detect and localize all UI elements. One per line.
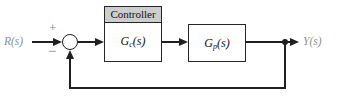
feedback-right-vertical-line: [284, 42, 286, 89]
feedback-left-vertical-line: [69, 57, 71, 87]
plant-tf-args: (s): [217, 36, 230, 50]
output-signal-label: Y(s): [303, 35, 322, 47]
controller-to-plant-arrowhead-icon: [179, 38, 188, 46]
sum-to-controller-arrowhead-icon: [95, 38, 104, 46]
controller-block-body: Gc(s): [105, 23, 161, 60]
plant-block: Gp(s): [188, 24, 246, 62]
output-arrowhead-icon: [290, 38, 299, 46]
summing-junction: [62, 34, 78, 50]
controller-block-header: Controller: [105, 7, 161, 23]
minus-sign: −: [48, 44, 56, 59]
feedback-arrowhead-icon: [66, 50, 74, 59]
controller-to-plant-line: [162, 41, 179, 43]
plant-transfer-function-label: Gp(s): [204, 36, 229, 51]
plus-sign: +: [49, 21, 56, 34]
controller-transfer-function-label: Gc(s): [121, 34, 146, 49]
controller-block: Controller Gc(s): [104, 6, 162, 62]
controller-tf-args: (s): [133, 34, 146, 48]
sum-to-controller-line: [78, 41, 95, 43]
controller-tf-main: G: [121, 34, 130, 48]
feedback-control-block-diagram: R(s) + − Controller Gc(s) Gp(s) Y(s): [0, 0, 338, 97]
feedback-bottom-line: [69, 87, 286, 89]
input-signal-label: R(s): [4, 35, 23, 47]
plant-tf-main: G: [204, 36, 213, 50]
